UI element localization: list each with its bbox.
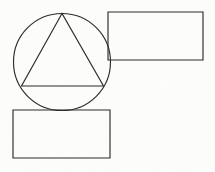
bottom-left-rectangle-shape [13,110,110,158]
top-right-rectangle-shape [108,12,203,60]
triangle-shape [22,14,104,87]
geometric-drawing [0,0,215,172]
figure-canvas: Overlapping geometric shapes line drawin… [0,0,215,172]
circle-shape [14,14,111,111]
